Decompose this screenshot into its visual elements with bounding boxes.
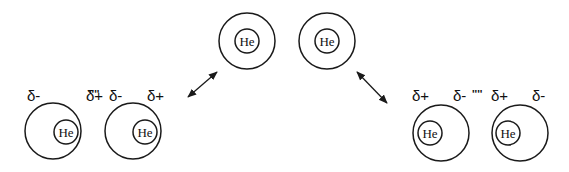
left-pair-charges: δ- δ+ '''' δ- δ+ [27, 87, 164, 104]
charge-label: δ- [453, 87, 466, 104]
charge-label: δ- [109, 87, 122, 104]
right-pair-charges: δ+ δ- '''' δ+ δ- [412, 87, 545, 104]
left-pair-atom-1: He [25, 103, 81, 159]
nucleus-label: He [500, 126, 515, 141]
top-atom-left: He [219, 13, 275, 69]
interaction-marks: '''' [472, 88, 483, 100]
charge-label: δ- [532, 87, 545, 104]
nucleus-label: He [319, 34, 334, 49]
right-double-arrow-icon [357, 72, 387, 103]
nucleus-label: He [422, 126, 437, 141]
nucleus-label: He [58, 125, 73, 140]
left-pair-atom-2: He [105, 103, 161, 159]
nucleus-label: He [239, 34, 254, 49]
top-atom-right: He [299, 13, 355, 69]
charge-label: δ- [27, 87, 40, 104]
right-pair-atom-1: He [413, 105, 469, 161]
electron-cloud-circle [413, 105, 469, 161]
charge-label: δ+ [147, 87, 164, 104]
nucleus-label: He [137, 125, 152, 140]
charge-label: δ+ [412, 87, 429, 104]
right-pair-atom-2: He [492, 105, 548, 161]
interaction-marks: '''' [89, 88, 100, 100]
charge-label: δ+ [491, 87, 508, 104]
helium-dipole-diagram: He He δ- δ+ '''' δ- δ+ He He [0, 0, 569, 172]
left-double-arrow-icon [188, 72, 217, 97]
